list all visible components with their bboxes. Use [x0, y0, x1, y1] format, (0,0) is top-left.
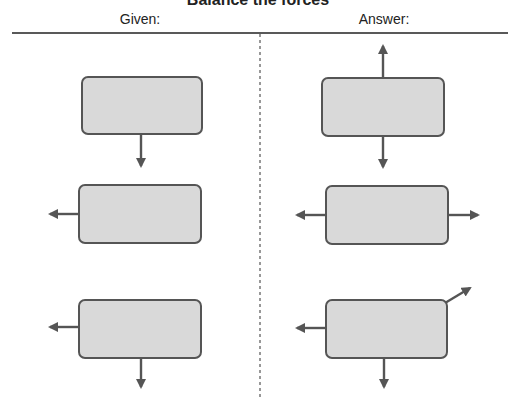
force-diagram: [0, 0, 516, 410]
arrow-up-right-icon: [445, 288, 470, 303]
answer-box-2: [297, 186, 478, 244]
answer-box-3: [297, 288, 470, 387]
answer-box-1: [322, 46, 444, 167]
given-box-1: [82, 77, 202, 166]
given-box-3: [50, 300, 201, 387]
given-box-2: [50, 185, 201, 243]
